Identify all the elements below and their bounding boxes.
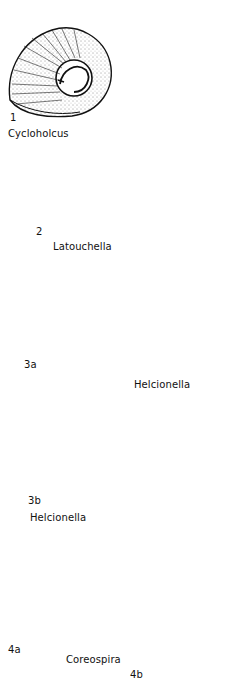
fossil-plate-illustration xyxy=(0,0,233,695)
genus-label-latouchella: Latouchella xyxy=(53,241,112,252)
genus-label-helcionella-3b: Helcionella xyxy=(30,512,86,523)
figure-number-3b: 3b xyxy=(28,495,41,506)
figure-1-cycloholcus xyxy=(9,28,111,117)
genus-label-helcionella-3a: Helcionella xyxy=(134,379,190,390)
figure-number-4b: 4b xyxy=(130,669,143,680)
figure-number-1: 1 xyxy=(10,112,16,123)
genus-label-cycloholcus: Cycloholcus xyxy=(8,128,69,139)
figure-number-4a: 4a xyxy=(8,644,21,655)
figure-number-3a: 3a xyxy=(24,359,37,370)
genus-label-coreospira: Coreospira xyxy=(66,654,121,665)
figure-number-2: 2 xyxy=(36,226,42,237)
